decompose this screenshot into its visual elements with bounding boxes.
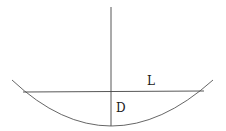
bowl-diagram: L D — [0, 0, 226, 131]
bowl-arc — [12, 80, 213, 126]
label-d: D — [116, 101, 126, 115]
chord-line — [23, 91, 204, 92]
label-l: L — [147, 74, 155, 88]
